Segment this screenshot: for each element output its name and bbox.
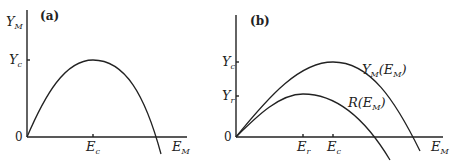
yc-label-b: Yc bbox=[222, 54, 236, 71]
yc-label-a: Yc bbox=[9, 52, 23, 69]
ym-curve-label-b: YM(EM) bbox=[362, 62, 407, 79]
panel-label-b: (b) bbox=[250, 14, 270, 28]
yr-label-b: Yr bbox=[222, 88, 236, 105]
panel-label-a: (a) bbox=[40, 9, 59, 23]
origin-label-b: 0 bbox=[224, 130, 232, 144]
x-axis-label-b: EM bbox=[430, 139, 450, 156]
er-label-b: Er bbox=[296, 139, 312, 156]
x-axis-label-a: EM bbox=[171, 139, 191, 156]
figure: (a) YM Yc 0 Ec EM (b) Yc Yr 0 Er Ec EM Y… bbox=[0, 0, 457, 168]
origin-label-a: 0 bbox=[15, 130, 23, 144]
ec-label-a: Ec bbox=[85, 139, 101, 156]
panel-a: (a) YM Yc 0 Ec EM bbox=[6, 9, 191, 156]
panel-b: (b) Yc Yr 0 Er Ec EM YM(EM) R(EM) bbox=[222, 14, 450, 160]
r-curve-label-b: R(EM) bbox=[347, 95, 386, 112]
y-axis-label-a: YM bbox=[6, 14, 24, 31]
ec-label-b: Ec bbox=[326, 139, 342, 156]
